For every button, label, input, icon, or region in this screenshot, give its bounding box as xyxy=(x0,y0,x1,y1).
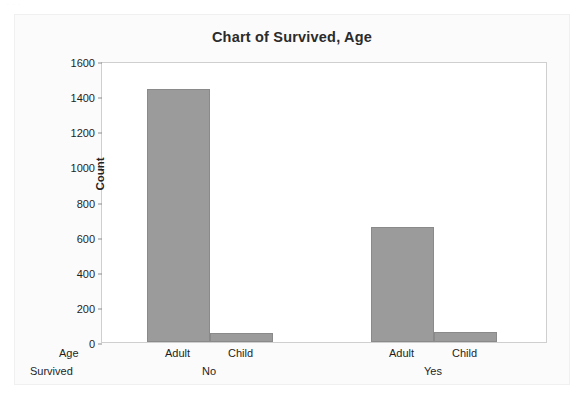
x-group-label: Yes xyxy=(424,365,442,377)
y-tick-mark xyxy=(98,344,102,345)
y-tick-mark xyxy=(98,238,102,239)
y-tick-mark xyxy=(98,273,102,274)
x-group-label: No xyxy=(202,365,216,377)
x-tick-label: Child xyxy=(228,347,253,359)
y-tick-mark xyxy=(98,308,102,309)
y-tick-mark xyxy=(98,63,102,64)
x-tick-label: Adult xyxy=(389,347,414,359)
bar xyxy=(210,333,273,342)
x-tick-label: Child xyxy=(452,347,477,359)
x-axis-row-title-survived: Survived xyxy=(30,365,73,377)
chart-card: Chart of Survived, Age Count 02004006008… xyxy=(14,14,570,385)
bar xyxy=(147,89,210,342)
y-tick-mark xyxy=(98,98,102,99)
bar xyxy=(371,227,434,342)
x-tick-label: Adult xyxy=(165,347,190,359)
scan-smudge-artifact: · · · xyxy=(7,1,21,7)
x-axis-row-title-age: Age xyxy=(59,347,79,359)
y-tick-mark xyxy=(98,203,102,204)
y-tick-mark xyxy=(98,168,102,169)
y-tick-mark xyxy=(98,133,102,134)
chart-title: Chart of Survived, Age xyxy=(15,29,569,45)
bar xyxy=(434,332,497,342)
plot-area: Count 02004006008001000120014001600 xyxy=(101,62,547,343)
